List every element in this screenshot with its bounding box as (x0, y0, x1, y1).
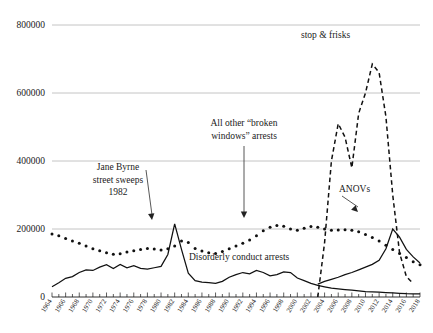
chart-svg: 0200000400000600000800000 19641966196819… (0, 0, 433, 333)
x-axis-tick-label: 1968 (67, 297, 81, 314)
x-axis-tick-label: 2008 (339, 297, 353, 314)
data-point (51, 233, 54, 236)
data-point (364, 233, 367, 236)
data-point (330, 229, 333, 232)
series-stop-and-frisks (318, 64, 413, 297)
x-axis-tick-label: 1994 (244, 297, 258, 314)
data-point (412, 260, 415, 263)
data-point (153, 248, 156, 251)
data-point (357, 230, 360, 233)
x-axis-tick-label: 1974 (108, 297, 122, 314)
x-axis-tick-label: 2014 (380, 297, 394, 314)
data-point (125, 251, 128, 254)
data-point (160, 249, 163, 252)
data-point (98, 249, 101, 252)
data-point (344, 228, 347, 231)
x-axis-tick-label: 2002 (298, 297, 312, 314)
x-axis-tick-label: 1990 (217, 297, 231, 314)
x-axis-tick-label: 1976 (121, 297, 135, 314)
data-point (64, 237, 67, 240)
data-point (180, 239, 183, 242)
data-point (85, 245, 88, 248)
data-point (78, 242, 81, 245)
data-point (105, 251, 108, 254)
x-axis-tick-label: 2000 (285, 297, 299, 314)
data-point (269, 226, 272, 229)
annotation-arrowhead (148, 213, 154, 220)
annotation-broken-windows: All other “broken windows” arrests (188, 117, 300, 142)
x-axis-tick-label: 1970 (80, 297, 94, 314)
data-point (303, 227, 306, 230)
data-point (241, 242, 244, 245)
annotation-jane-byrne-line1: Jane Byrne (72, 161, 164, 174)
data-point (139, 248, 142, 251)
data-point (309, 225, 312, 228)
series-anovs (318, 229, 420, 284)
annotation-jane-byrne-line3: 1982 (72, 186, 164, 199)
x-axis-tick-label: 1998 (271, 297, 285, 314)
data-point (275, 224, 278, 227)
data-point (371, 236, 374, 239)
data-point (228, 247, 231, 250)
x-axis-tick-label: 2010 (353, 297, 367, 314)
data-point (119, 252, 122, 255)
annotation-jane-byrne: Jane Byrne street sweeps 1982 (72, 161, 164, 199)
x-axis-tick-label: 1966 (53, 297, 67, 314)
x-axis-tick-label: 1972 (94, 297, 108, 314)
data-point (255, 234, 258, 237)
data-point (405, 256, 408, 259)
data-point (91, 247, 94, 250)
data-point (419, 263, 422, 266)
x-axis-labels: 1964196619681970197219741976197819801982… (39, 297, 421, 314)
annotation-disorderly-conduct: Disorderly conduct arrests (189, 252, 289, 262)
data-point (57, 234, 60, 237)
x-axis-tick-label: 1978 (135, 297, 149, 314)
annotation-broken-windows-line2: windows” arrests (188, 130, 300, 143)
y-axis-tick-label: 600000 (17, 88, 46, 98)
y-axis-tick-label: 200000 (17, 224, 46, 234)
x-axis-tick-label: 1986 (189, 297, 203, 314)
x-axis-tick-label: 1988 (203, 297, 217, 314)
x-axis-tick-label: 1982 (162, 297, 176, 314)
data-point (112, 253, 115, 256)
data-point (391, 248, 394, 251)
annotation-jane-byrne-line2: street sweeps (72, 174, 164, 187)
chart-container: 0200000400000600000800000 19641966196819… (0, 0, 433, 333)
data-point (248, 238, 251, 241)
data-point (262, 229, 265, 232)
x-axis-tick-label: 1992 (230, 297, 244, 314)
x-axis-tick-label: 2016 (394, 297, 408, 314)
annotation-arrowhead (241, 212, 247, 219)
x-axis-tick-label: 2018 (407, 297, 421, 314)
x-axis-tick-label: 2004 (312, 297, 326, 314)
data-point (187, 241, 190, 244)
data-point (296, 229, 299, 232)
annotation-anovs: ANOVs (339, 184, 370, 194)
data-point (337, 229, 340, 232)
annotation-stop-and-frisks: stop & frisks (301, 30, 350, 40)
y-axis-tick-label: 800000 (17, 20, 46, 30)
x-axis-tick-label: 1984 (176, 297, 190, 314)
data-point (378, 239, 381, 242)
data-point (316, 226, 319, 229)
data-point (194, 247, 197, 250)
data-point (235, 245, 238, 248)
x-axis-tick-label: 2012 (367, 297, 381, 314)
x-axis-tick-label: 1996 (258, 297, 272, 314)
data-point (132, 249, 135, 252)
annotation-arrows (146, 146, 358, 220)
data-point (289, 228, 292, 231)
data-point (146, 247, 149, 250)
data-point (173, 245, 176, 248)
data-point (282, 225, 285, 228)
data-point (350, 229, 353, 232)
y-axis-labels: 0200000400000600000800000 (17, 20, 46, 302)
annotation-broken-windows-line1: All other “broken (188, 117, 300, 130)
x-axis-tick-label: 1980 (149, 297, 163, 314)
x-axis (52, 293, 420, 298)
data-point (71, 239, 74, 242)
x-axis-tick-label: 2006 (326, 297, 340, 314)
y-axis-tick-label: 400000 (17, 156, 46, 166)
